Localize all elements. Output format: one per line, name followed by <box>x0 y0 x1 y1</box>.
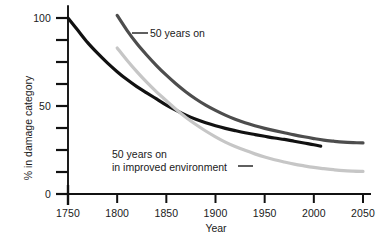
annotation-50-years-on: 50 years on <box>150 27 205 40</box>
x-tick-label: 1800 <box>105 208 129 219</box>
chart-container: 050100 1750180018501900195020002050 Year… <box>0 0 389 250</box>
y-axis-title: % in damage category <box>22 48 34 208</box>
x-tick-label: 2050 <box>351 208 375 219</box>
x-tick-label: 1900 <box>204 208 228 219</box>
axis-layer <box>56 5 371 205</box>
annotation-upper-line-1: 50 years on <box>150 27 205 40</box>
x-tick-label: 2000 <box>302 208 326 219</box>
x-tick-label: 1750 <box>56 208 80 219</box>
annotation-50-years-on-improved-environment: 50 years on in improved environment <box>112 148 227 173</box>
x-tick-label: 1850 <box>154 208 178 219</box>
x-tick-label: 1950 <box>253 208 277 219</box>
annotation-lower-line-2: in improved environment <box>112 161 227 174</box>
y-tick-label: 100 <box>0 13 51 24</box>
annotation-lower-line-1: 50 years on <box>112 148 227 161</box>
x-axis-title: Year <box>205 222 226 234</box>
